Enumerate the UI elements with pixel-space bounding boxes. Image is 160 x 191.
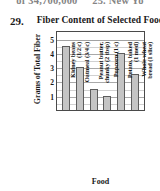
bar-chart-figure: Grams of Total Fiber 12345 Kidney beans(… <box>0 31 160 191</box>
scanned-page-top-fragment: of 34,700,000 25. New Yo <box>0 0 160 6</box>
x-tick-label: Whole wheatbread (1 slice) <box>132 112 140 184</box>
y-axis-title: Grams of Total Fiber <box>33 33 43 105</box>
x-tick-label: Potato, baked(1 med) <box>118 112 126 184</box>
x-tick-label-text: Peanut butter,chunky (2 tbsp) <box>98 42 111 112</box>
x-tick-label-text: Whole wheatbread (1 slice) <box>141 42 154 112</box>
top-fragment-left: of 34,700,000 <box>16 0 77 6</box>
x-axis-title: Food <box>56 177 145 186</box>
x-tick-label: Kidney beans(1/2 c) <box>61 112 69 184</box>
top-fragment-right: 25. New Yo <box>92 0 143 6</box>
problem-number: 29. <box>10 15 24 27</box>
y-tick-label: 3 <box>50 65 54 72</box>
x-tick-label-text: Popcorn (1 c) <box>113 42 119 112</box>
x-tick-label: Peanut butter,chunky (2 tbsp) <box>89 112 97 184</box>
x-axis-tick-labels: Kidney beans(1/2 c)Oatmeal (3/4 c)Peanut… <box>56 112 145 184</box>
y-tick-label: 1 <box>50 93 54 100</box>
chart-title: Fiber Content of Selected Foods <box>37 15 160 25</box>
x-tick-label-text: Kidney beans(1/2 c) <box>70 42 83 112</box>
y-tick-label: 4 <box>50 50 54 57</box>
y-tick-label: 2 <box>50 79 54 86</box>
x-tick-label-text: Oatmeal (3/4 c) <box>84 42 90 112</box>
x-tick-label: Popcorn (1 c) <box>104 112 112 184</box>
y-tick-label: 5 <box>50 36 54 43</box>
x-tick-label: Oatmeal (3/4 c) <box>75 112 83 184</box>
bar <box>90 89 98 110</box>
y-axis-tick-labels: 12345 <box>44 31 55 111</box>
x-tick-label-text: Potato, baked(1 med) <box>127 42 140 112</box>
problem-header: 29. Fiber Content of Selected Foods <box>10 15 160 29</box>
